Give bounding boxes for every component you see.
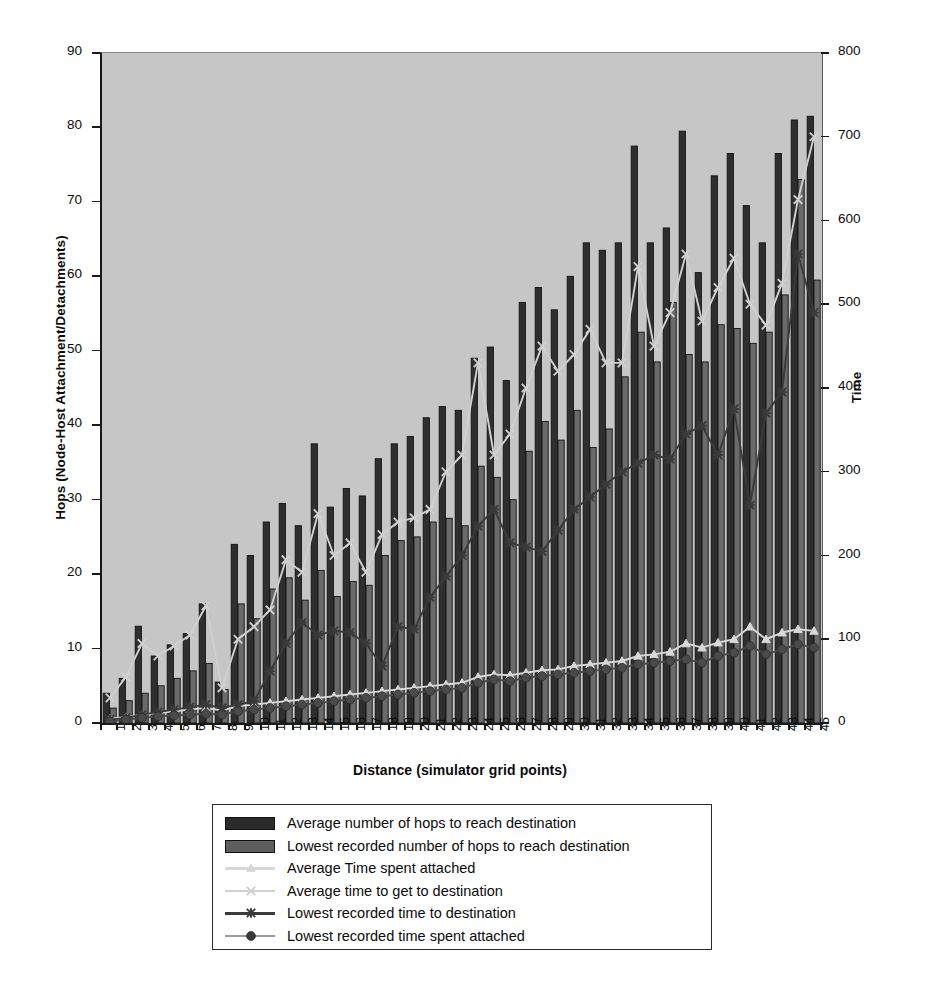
legend-label: Average time to get to destination	[287, 884, 503, 899]
x-axis-title: Distance (simulator grid points)	[100, 762, 820, 778]
x-axis-tickmark	[788, 723, 790, 730]
legend-item-5[interactable]: Lowest recorded time spent attached	[223, 925, 701, 948]
x-axis-tickmark	[452, 723, 454, 730]
x-axis-tickmark	[708, 723, 710, 730]
x-axis-tickmark	[804, 723, 806, 730]
x-axis-tickmark	[516, 723, 518, 730]
legend-label: Lowest recorded number of hops to reach …	[287, 839, 630, 854]
x-axis-tickmark	[164, 723, 166, 730]
y-axis-left-tickmark	[92, 648, 100, 650]
x-axis-tickmark	[260, 723, 262, 730]
y-axis-left-tickmark	[92, 52, 100, 54]
y-axis-left-tick-60: 60	[46, 266, 82, 281]
x-axis-tickmark	[548, 723, 550, 730]
y-axis-left-tickmark	[92, 499, 100, 501]
x-axis-tickmark	[692, 723, 694, 730]
legend-label: Lowest recorded time to destination	[287, 906, 516, 921]
x-axis-tickmark	[596, 723, 598, 730]
y-axis-right-tick-700: 700	[838, 127, 878, 142]
legend-key-none-icon	[223, 837, 279, 855]
x-axis-tickmark	[116, 723, 118, 730]
x-axis-tickmark	[180, 723, 182, 730]
y-axis-left-tickmark	[92, 275, 100, 277]
legend-key-triangle-icon	[223, 859, 279, 877]
legend-item-1[interactable]: Lowest recorded number of hops to reach …	[223, 835, 701, 858]
y-axis-right-tick-200: 200	[838, 546, 878, 561]
x-axis-tickmark	[308, 723, 310, 730]
chart-figure: Hops (Node-Host Attachment/Detachments) …	[0, 0, 938, 986]
y-axis-right-ticklabels: 0100200300400500600700800	[838, 0, 882, 986]
x-axis-tickmark	[580, 723, 582, 730]
y-axis-left-tick-40: 40	[46, 415, 82, 430]
x-axis-tickmark	[436, 723, 438, 730]
x-axis-tickmark	[740, 723, 742, 730]
y-axis-right-tickmark	[821, 220, 829, 222]
x-axis-tickmark	[756, 723, 758, 730]
legend-key-x-icon	[223, 882, 279, 900]
y-axis-left-ticklabels: 0102030405060708090	[46, 0, 82, 986]
y-axis-right-tick-600: 600	[838, 211, 878, 226]
legend-marker-circle-icon	[243, 928, 259, 944]
x-axis-tickmark	[772, 723, 774, 730]
y-axis-right-tick-800: 800	[838, 43, 878, 58]
x-axis-tickmark	[676, 723, 678, 730]
y-axis-left-tick-10: 10	[46, 639, 82, 654]
x-axis-tickmark	[644, 723, 646, 730]
legend-key-circle-icon	[223, 927, 279, 945]
y-axis-left-tick-80: 80	[46, 117, 82, 132]
y-axis-left-tick-90: 90	[46, 43, 82, 58]
y-axis-left-tickmark	[92, 350, 100, 352]
legend-marker-x-icon	[243, 883, 259, 899]
x-axis-tickmark	[324, 723, 326, 730]
x-axis-tickmark	[564, 723, 566, 730]
x-axis-tickmark	[420, 723, 422, 730]
x-axis-tickmark	[468, 723, 470, 730]
x-axis-tickmark	[532, 723, 534, 730]
legend-swatch-bar	[225, 840, 275, 853]
x-axis-tickmark	[148, 723, 150, 730]
y-axis-left-tickmark	[92, 126, 100, 128]
x-axis-tickmark	[820, 723, 822, 730]
y-axis-right-tick-0: 0	[838, 713, 878, 728]
x-axis-tickmark	[660, 723, 662, 730]
legend-item-2[interactable]: Average Time spent attached	[223, 857, 701, 880]
x-axis-tickmark	[228, 723, 230, 730]
y-axis-right-tickmark	[821, 638, 829, 640]
y-axis-right-tickmark	[821, 136, 829, 138]
y-axis-left-tick-30: 30	[46, 490, 82, 505]
x-axis-tickmark	[372, 723, 374, 730]
legend-marker-triangle-icon	[243, 860, 259, 876]
y-axis-right-tick-100: 100	[838, 629, 878, 644]
legend-swatch-bar	[225, 817, 275, 830]
y-axis-left-tick-70: 70	[46, 192, 82, 207]
y-axis-right-tickmark	[821, 52, 829, 54]
plot-area	[100, 52, 823, 725]
y-axis-left-tick-50: 50	[46, 341, 82, 356]
legend-key-asterisk-icon	[223, 904, 279, 922]
y-axis-right-tick-400: 400	[838, 378, 878, 393]
plot-series-canvas	[102, 53, 822, 723]
y-axis-left-tickmark	[92, 722, 100, 724]
legend-key-none-icon	[223, 814, 279, 832]
y-axis-right-tickmark	[821, 471, 829, 473]
x-axis-tickmark	[484, 723, 486, 730]
x-axis-tickmark	[340, 723, 342, 730]
x-axis-tickmark	[100, 723, 102, 730]
x-axis-tickmark	[612, 723, 614, 730]
legend-item-4[interactable]: Lowest recorded time to destination	[223, 902, 701, 925]
y-axis-left-tick-20: 20	[46, 564, 82, 579]
x-axis-tickmark	[132, 723, 134, 730]
x-axis-tickmark	[388, 723, 390, 730]
y-axis-right-tickmark	[821, 303, 829, 305]
legend-marker-asterisk-icon	[243, 905, 259, 921]
x-axis-tickmark	[276, 723, 278, 730]
legend-item-0[interactable]: Average number of hops to reach destinat…	[223, 812, 701, 835]
x-axis-tickmark	[628, 723, 630, 730]
y-axis-right-tickmark	[821, 387, 829, 389]
legend-item-3[interactable]: Average time to get to destination	[223, 880, 701, 903]
x-axis-tickmark	[212, 723, 214, 730]
legend-label: Average number of hops to reach destinat…	[287, 816, 576, 831]
x-axis-tickmark	[244, 723, 246, 730]
chart-legend: Average number of hops to reach destinat…	[212, 804, 712, 950]
legend-label: Average Time spent attached	[287, 861, 475, 876]
